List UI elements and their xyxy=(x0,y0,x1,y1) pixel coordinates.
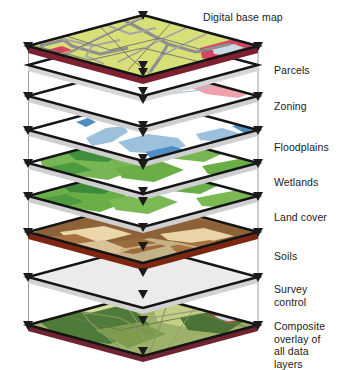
label-survey-control: Survey control xyxy=(274,283,307,308)
label-land-cover: Land cover xyxy=(274,211,327,224)
label-wetlands: Wetlands xyxy=(274,176,318,189)
label-parcels: Parcels xyxy=(274,64,310,77)
label-soils: Soils xyxy=(274,250,297,263)
label-floodplains: Floodplains xyxy=(274,141,329,154)
label-zoning: Zoning xyxy=(274,100,307,113)
label-composite-overlay: Composite overlay of all data layers xyxy=(274,320,339,370)
label-digital-base-map: Digital base map xyxy=(203,11,283,24)
